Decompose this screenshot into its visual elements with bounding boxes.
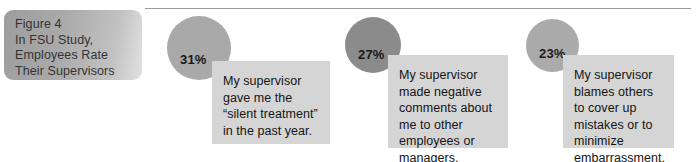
- statement-text-2: My supervisor made negative comments abo…: [399, 67, 498, 162]
- statement-box-2: My supervisor made negative comments abo…: [388, 55, 508, 148]
- statement-box-3: My supervisor blames others to cover up …: [563, 55, 674, 148]
- percent-label-1: 31%: [167, 30, 207, 67]
- figure-title-plaque: Figure 4 In FSU Study, Employees Rate Th…: [4, 10, 142, 80]
- figure-container: Figure 4 In FSU Study, Employees Rate Th…: [0, 0, 697, 162]
- statement-text-1: My supervisor gave me the “silent treatm…: [223, 73, 320, 139]
- figure-title-line-4: Their Supervisors: [15, 64, 133, 80]
- top-divider-rule: [145, 8, 691, 9]
- percent-label-3: 23%: [526, 30, 566, 61]
- statement-box-1: My supervisor gave me the “silent treatm…: [212, 61, 330, 144]
- statement-text-3: My supervisor blames others to cover up …: [574, 67, 664, 162]
- figure-title-line-1: Figure 4: [15, 17, 133, 33]
- percent-label-2: 27%: [345, 29, 385, 62]
- figure-title-line-3: Employees Rate: [15, 48, 133, 64]
- figure-title-line-2: In FSU Study,: [15, 33, 133, 49]
